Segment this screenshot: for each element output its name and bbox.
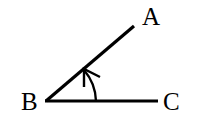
angle-diagram: A B C xyxy=(0,0,199,135)
point-label-b: B xyxy=(21,89,38,114)
ray-ba xyxy=(46,26,134,101)
point-label-a: A xyxy=(142,4,160,29)
point-label-c: C xyxy=(163,89,180,114)
